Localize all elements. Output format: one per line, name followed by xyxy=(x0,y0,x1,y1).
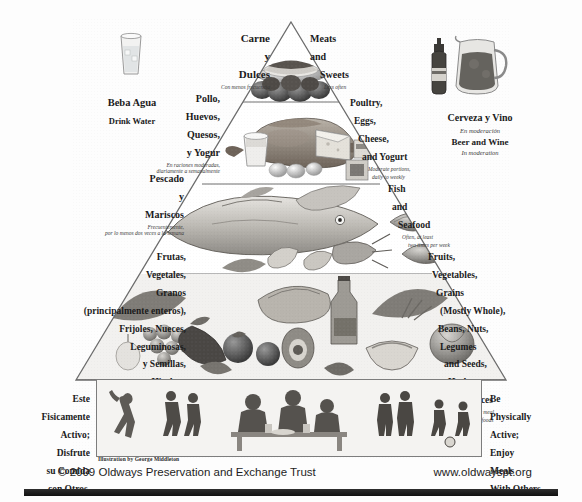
activity-label-es: Este Fisicamente Activo; Disfrute su Com… xyxy=(4,388,90,495)
tier-meats-sweets-label-en: Meats and Sweets Less often xyxy=(310,28,440,90)
activity-figures xyxy=(97,380,481,456)
illustration-credit: Illustration by George Middleton xyxy=(98,456,179,462)
physical-activity-photo-band xyxy=(96,379,482,457)
tier-poultry-label-en: Poultry, Eggs, Cheese, and Yogurt Modera… xyxy=(350,92,470,180)
tier-poultry-label-es: Pollo, Huevos, Quesos, y Yogur En racion… xyxy=(110,88,220,174)
mediterranean-diet-poster: Beba Agua Drink Water Cerveza y Vino En … xyxy=(0,0,582,502)
activity-label-en: Be Physically Active; Enjoy Meals With O… xyxy=(490,388,580,495)
tier-fish-label-en: Fish and Seafood Often, at least two tim… xyxy=(388,178,508,248)
bottom-dark-bar xyxy=(24,489,558,496)
website-url[interactable]: www.oldwayspt.org xyxy=(434,466,532,478)
tier-fish-label-es: Pescado y Mariscos Frecuentemente, por l… xyxy=(62,168,184,236)
tier-meats-sweets-label-es: Carne y Dulces Con menos frecuencia xyxy=(140,28,270,90)
copyright-text: © 2009 Oldways Preservation and Exchange… xyxy=(58,466,316,478)
